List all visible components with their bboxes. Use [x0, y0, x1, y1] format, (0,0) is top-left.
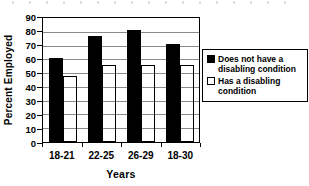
y-tick-mark [37, 45, 42, 46]
y-tick-mark [37, 31, 42, 32]
x-tick-mark [200, 143, 201, 147]
x-category-label: 26-29 [121, 150, 161, 161]
y-tick-label: 70 [0, 40, 36, 51]
y-tick-mark [37, 87, 42, 88]
y-tick-mark [37, 59, 42, 60]
x-category-label: 22-25 [82, 150, 122, 161]
y-tick-label: 80 [0, 26, 36, 37]
open-square-icon [207, 77, 215, 85]
y-tick-mark [37, 129, 42, 130]
legend-label: Has a disabling condition [218, 76, 305, 96]
y-tick-label: 50 [0, 68, 36, 79]
bar-has-disability-26-29 [141, 65, 155, 142]
legend: Does not have a disabling condition Has … [202, 49, 308, 102]
figure: Percent Employed Years Does not have a d… [0, 0, 309, 186]
legend-item-has-disability: Has a disabling condition [207, 76, 305, 96]
y-tick-label: 30 [0, 96, 36, 107]
y-tick-mark [37, 101, 42, 102]
x-axis-title: Years [42, 168, 200, 180]
plot-area [42, 17, 200, 143]
x-tick-mark [82, 143, 83, 147]
bar-no-disability-18-30 [166, 44, 180, 142]
y-tick-mark [37, 73, 42, 74]
y-tick-label: 40 [0, 82, 36, 93]
y-tick-label: 90 [0, 12, 36, 23]
y-tick-mark [37, 115, 42, 116]
bar-has-disability-18-30 [180, 65, 194, 142]
bar-no-disability-22-25 [88, 36, 102, 142]
x-tick-mark [121, 143, 122, 147]
cropped-caption-remnant [12, 1, 296, 4]
legend-item-no-disability: Does not have a disabling condition [207, 54, 305, 74]
bar-has-disability-18-21 [63, 76, 77, 142]
bar-no-disability-18-21 [49, 58, 63, 142]
bar-has-disability-22-25 [102, 65, 116, 142]
bar-no-disability-26-29 [127, 30, 141, 142]
y-tick-label: 0 [0, 138, 36, 149]
y-tick-label: 10 [0, 124, 36, 135]
x-category-label: 18-30 [161, 150, 201, 161]
legend-label: Does not have a disabling condition [218, 54, 305, 74]
y-tick-mark [37, 17, 42, 18]
filled-square-icon [207, 55, 215, 63]
x-tick-mark [161, 143, 162, 147]
x-tick-mark [42, 143, 43, 147]
x-category-label: 18-21 [42, 150, 82, 161]
gridline [43, 32, 199, 33]
y-tick-label: 60 [0, 54, 36, 65]
y-tick-label: 20 [0, 110, 36, 121]
